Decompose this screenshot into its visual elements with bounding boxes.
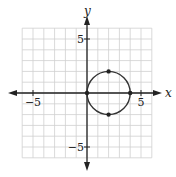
chart: x y −555−5 xyxy=(0,0,176,177)
data-point xyxy=(106,112,110,116)
x-axis-label: x xyxy=(165,86,172,100)
x-axis-arrow-right xyxy=(153,90,162,96)
y-tick-label: −5 xyxy=(68,141,84,154)
coordinate-plane: x y −555−5 xyxy=(0,0,176,177)
data-point xyxy=(106,69,110,73)
y-tick-label: 5 xyxy=(77,33,84,46)
x-tick-label: 5 xyxy=(138,96,145,109)
y-axis-arrow-down xyxy=(84,162,90,171)
x-axis-arrow-left xyxy=(8,90,17,96)
x-tick-label: −5 xyxy=(25,96,41,109)
data-point xyxy=(85,91,89,95)
y-axis-label: y xyxy=(83,4,91,18)
data-point xyxy=(128,91,132,95)
